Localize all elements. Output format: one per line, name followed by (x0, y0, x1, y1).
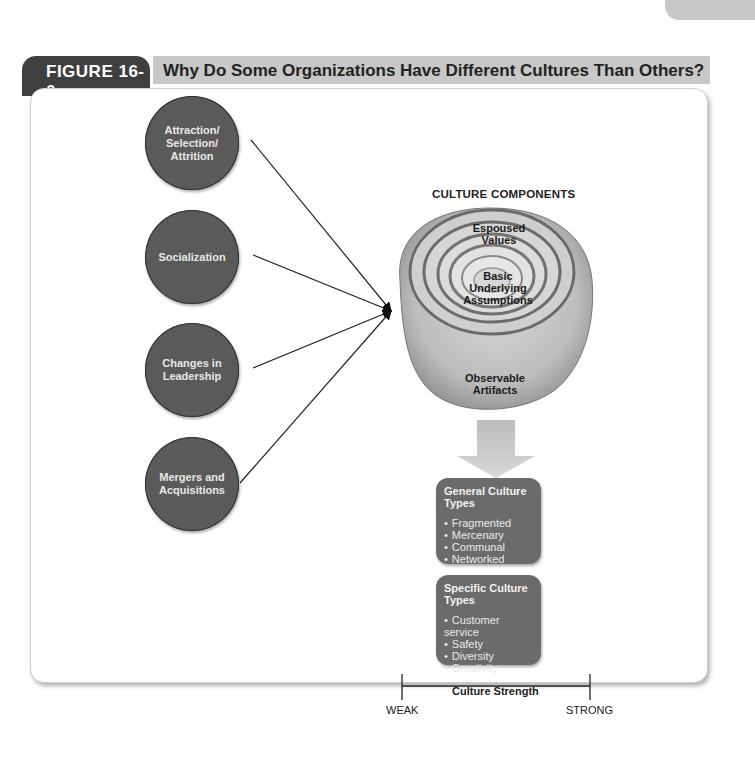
cause-attraction-selection-attrition: Attraction/ Selection/ Attrition (145, 96, 239, 190)
cause-mergers-acquisitions: Mergers and Acquisitions (145, 437, 239, 531)
arrow-socialization (253, 255, 391, 311)
general-culture-types-list: Fragmented Mercenary Communal Networked (444, 517, 533, 565)
cause-label: Mergers and Acquisitions (155, 471, 229, 497)
list-item: Fragmented (444, 517, 533, 529)
list-item: Safety (444, 638, 533, 650)
label-basic-underlying-assumptions: Basic Underlying Assumptions (458, 270, 538, 306)
list-item: Creativity (444, 662, 533, 674)
list-item: Diversity (444, 650, 533, 662)
cause-changes-in-leadership: Changes in Leadership (145, 323, 239, 417)
cause-label: Changes in Leadership (155, 357, 229, 383)
label-espoused-values: Espoused Values (470, 222, 528, 246)
general-culture-types-title: General Culture Types (444, 485, 533, 509)
cause-socialization: Socialization (145, 210, 239, 304)
down-arrow-icon (457, 420, 535, 480)
label-observable-artifacts: Observable Artifacts (457, 372, 533, 396)
list-item: Customer service (444, 614, 533, 638)
cause-label: Attraction/ Selection/ Attrition (155, 124, 229, 163)
culture-strength-title: Culture Strength (452, 685, 539, 697)
list-item: Mercenary (444, 529, 533, 541)
arrow-leadership (253, 311, 391, 368)
list-item: Networked (444, 553, 533, 565)
culture-components-title: CULTURE COMPONENTS (432, 188, 575, 200)
strength-strong-label: STRONG (566, 704, 613, 716)
strength-weak-label: WEAK (386, 704, 418, 716)
specific-culture-types-box: Specific Culture Types Customer service … (436, 575, 541, 665)
specific-culture-types-title: Specific Culture Types (444, 582, 533, 606)
list-item: Communal (444, 541, 533, 553)
arrow-attraction (251, 140, 391, 311)
arrow-mergers (240, 311, 391, 483)
specific-culture-types-list: Customer service Safety Diversity Creati… (444, 614, 533, 674)
general-culture-types-box: General Culture Types Fragmented Mercena… (436, 478, 541, 564)
cause-label: Socialization (158, 251, 225, 264)
